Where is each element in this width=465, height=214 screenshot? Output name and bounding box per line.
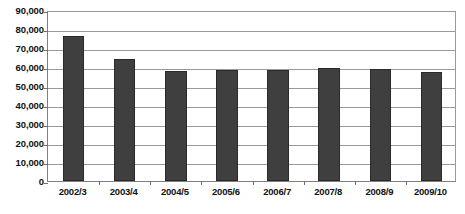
y-axis-tick-mark [44,31,48,32]
gridline [48,164,455,165]
gridline [48,31,455,32]
y-axis-tick-label: 80,000 [0,25,44,35]
x-axis-category-label: 2003/4 [98,186,149,197]
y-axis-tick-label: 60,000 [0,63,44,73]
bottom-cutoff-text [47,206,456,214]
bar [216,70,237,181]
x-axis-category-label: 2005/6 [200,186,251,197]
bar [63,36,84,181]
bar [114,59,135,181]
y-axis-tick-label: 20,000 [0,139,44,149]
gridline [48,126,455,127]
plot-area [47,11,456,182]
gridline [48,50,455,51]
y-axis-tick-label: 40,000 [0,101,44,111]
x-axis-category-label: 2002/3 [47,186,98,197]
y-axis-tick-mark [44,69,48,70]
x-axis-tick-mark [406,181,407,185]
y-axis-tick-mark [44,107,48,108]
y-axis-tick-mark [44,12,48,13]
y-axis-tick-label: 90,000 [0,6,44,16]
y-axis-tick-mark [44,145,48,146]
y-axis-tick-mark [44,50,48,51]
y-axis-tick-mark [44,183,48,184]
x-axis-tick-mark [304,181,305,185]
x-axis-category-label: 2004/5 [149,186,200,197]
bar [267,70,288,181]
x-axis-tick-mark [355,181,356,185]
x-axis-category-label: 2006/7 [252,186,303,197]
x-axis-tick-mark [253,181,254,185]
y-axis-tick-label: 70,000 [0,44,44,54]
gridline [48,88,455,89]
gridline [48,69,455,70]
x-axis-tick-mark [201,181,202,185]
bar [318,68,339,181]
bar-chart-figure: 90,00080,00070,00060,00050,00040,00030,0… [0,0,465,214]
bar [165,71,186,181]
y-axis-tick-mark [44,164,48,165]
x-axis-tick-mark [150,181,151,185]
y-axis-tick-label: 0 [0,177,44,187]
x-axis: 2002/32003/42004/52005/62006/72007/82008… [47,186,456,202]
bar [370,69,391,181]
y-axis-tick-mark [44,88,48,89]
bar [421,72,442,181]
x-axis-category-label: 2007/8 [303,186,354,197]
y-axis-tick-label: 30,000 [0,120,44,130]
x-axis-category-label: 2008/9 [354,186,405,197]
gridline [48,107,455,108]
x-axis-category-label: 2009/10 [405,186,456,197]
gridline [48,145,455,146]
y-axis-tick-label: 10,000 [0,158,44,168]
y-axis: 90,00080,00070,00060,00050,00040,00030,0… [0,0,44,214]
y-axis-tick-label: 50,000 [0,82,44,92]
y-axis-tick-mark [44,126,48,127]
x-axis-tick-mark [99,181,100,185]
